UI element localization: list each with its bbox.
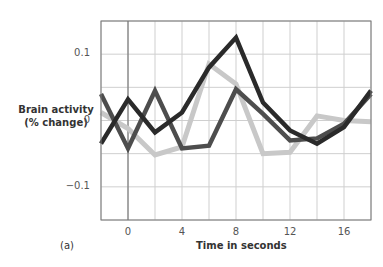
x-tick-label: 16 [334, 226, 354, 237]
y-tick-label: 0 [60, 114, 90, 125]
x-tick-label: 12 [280, 226, 300, 237]
x-axis-title: Time in seconds [196, 240, 287, 251]
y-tick-label: 0.1 [60, 47, 90, 58]
y-tick-label: −0.1 [60, 180, 90, 191]
x-tick-label: 8 [226, 226, 246, 237]
x-tick-label: 4 [172, 226, 192, 237]
x-tick-label: 0 [118, 226, 138, 237]
panel-label: (a) [60, 240, 74, 251]
